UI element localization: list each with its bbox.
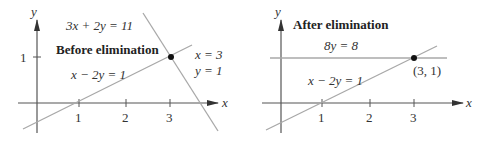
right-panel: x y 1 2 3 After elimination 8y = 8 x − 2… [262, 4, 472, 133]
left-solution-y: y = 1 [193, 63, 223, 78]
left-x-tick-3: 3 [166, 110, 173, 125]
elimination-diagram: x y 1 2 3 1 3x + 2y = 11 Before eliminat… [0, 0, 485, 142]
left-x-tick-2: 2 [122, 110, 129, 125]
right-x-tick-3: 3 [410, 110, 417, 125]
right-x-tick-2: 2 [366, 110, 373, 125]
left-x-tick-1: 1 [75, 110, 82, 125]
right-line2-label: x − 2y = 1 [307, 73, 363, 88]
right-y-axis-label: y [273, 4, 281, 19]
left-panel: x y 1 2 3 1 3x + 2y = 11 Before eliminat… [18, 4, 228, 133]
left-y-axis-label: y [29, 4, 37, 19]
right-intersection-point [411, 55, 417, 61]
right-title: After elimination [293, 17, 389, 32]
right-x-axis-label: x [465, 95, 472, 110]
right-point-label: (3, 1) [413, 63, 441, 78]
left-x-axis-label: x [221, 95, 228, 110]
right-x-tick-1: 1 [318, 110, 325, 125]
right-line1-label: 8y = 8 [324, 38, 359, 53]
left-line2-label: x − 2y = 1 [70, 67, 126, 82]
left-line1-label: 3x + 2y = 11 [65, 18, 133, 33]
left-y-tick-1: 1 [20, 50, 27, 65]
left-solution-x: x = 3 [194, 47, 223, 62]
left-intersection-point [168, 54, 174, 60]
left-title: Before elimination [56, 42, 159, 57]
